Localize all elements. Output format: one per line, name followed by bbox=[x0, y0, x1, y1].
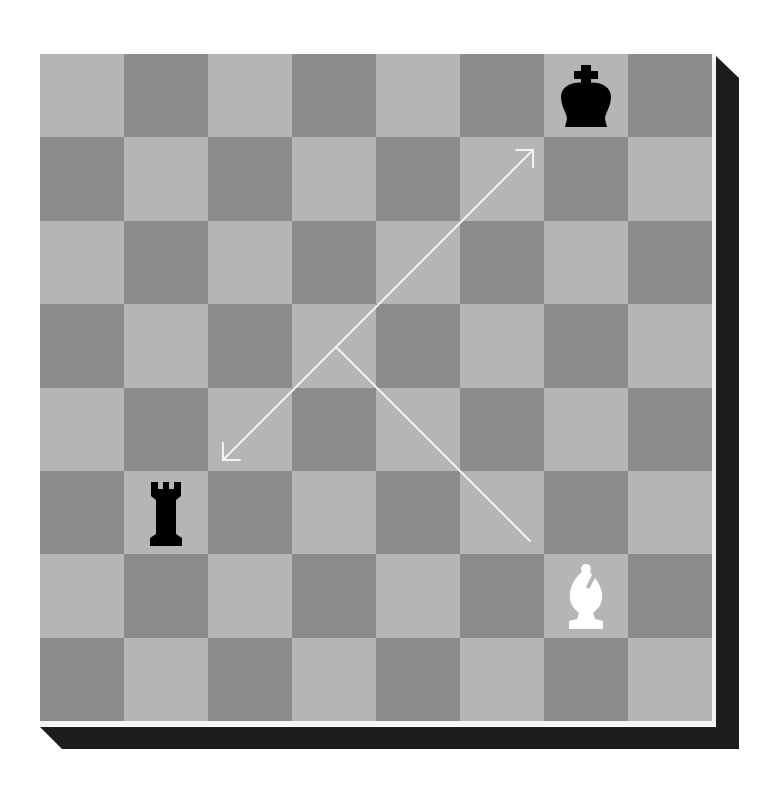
square-c6[interactable] bbox=[208, 221, 292, 304]
square-f6[interactable] bbox=[460, 221, 544, 304]
square-g3[interactable] bbox=[544, 471, 628, 554]
square-e1[interactable] bbox=[376, 638, 460, 721]
square-c7[interactable] bbox=[208, 137, 292, 220]
square-e8[interactable] bbox=[376, 54, 460, 137]
square-e4[interactable] bbox=[376, 388, 460, 471]
square-b1[interactable] bbox=[124, 638, 208, 721]
square-g8[interactable] bbox=[544, 54, 628, 137]
square-a5[interactable] bbox=[40, 304, 124, 387]
square-g1[interactable] bbox=[544, 638, 628, 721]
square-g6[interactable] bbox=[544, 221, 628, 304]
black-rook-icon[interactable] bbox=[131, 478, 201, 548]
square-g5[interactable] bbox=[544, 304, 628, 387]
square-f7[interactable] bbox=[460, 137, 544, 220]
square-b7[interactable] bbox=[124, 137, 208, 220]
square-d1[interactable] bbox=[292, 638, 376, 721]
square-c2[interactable] bbox=[208, 554, 292, 637]
square-e7[interactable] bbox=[376, 137, 460, 220]
square-e6[interactable] bbox=[376, 221, 460, 304]
square-a7[interactable] bbox=[40, 137, 124, 220]
square-c3[interactable] bbox=[208, 471, 292, 554]
square-d6[interactable] bbox=[292, 221, 376, 304]
square-d8[interactable] bbox=[292, 54, 376, 137]
square-g7[interactable] bbox=[544, 137, 628, 220]
square-f5[interactable] bbox=[460, 304, 544, 387]
square-h3[interactable] bbox=[628, 471, 712, 554]
square-a4[interactable] bbox=[40, 388, 124, 471]
square-h1[interactable] bbox=[628, 638, 712, 721]
square-a2[interactable] bbox=[40, 554, 124, 637]
square-f2[interactable] bbox=[460, 554, 544, 637]
square-c1[interactable] bbox=[208, 638, 292, 721]
square-e3[interactable] bbox=[376, 471, 460, 554]
square-a1[interactable] bbox=[40, 638, 124, 721]
square-f8[interactable] bbox=[460, 54, 544, 137]
square-d4[interactable] bbox=[292, 388, 376, 471]
square-b3[interactable] bbox=[124, 471, 208, 554]
square-e2[interactable] bbox=[376, 554, 460, 637]
square-g4[interactable] bbox=[544, 388, 628, 471]
square-f3[interactable] bbox=[460, 471, 544, 554]
square-h6[interactable] bbox=[628, 221, 712, 304]
square-d5[interactable] bbox=[292, 304, 376, 387]
square-f1[interactable] bbox=[460, 638, 544, 721]
square-h5[interactable] bbox=[628, 304, 712, 387]
square-d2[interactable] bbox=[292, 554, 376, 637]
square-f4[interactable] bbox=[460, 388, 544, 471]
square-c8[interactable] bbox=[208, 54, 292, 137]
chess-board bbox=[40, 54, 716, 726]
square-e5[interactable] bbox=[376, 304, 460, 387]
square-d7[interactable] bbox=[292, 137, 376, 220]
square-a8[interactable] bbox=[40, 54, 124, 137]
square-h4[interactable] bbox=[628, 388, 712, 471]
square-a3[interactable] bbox=[40, 471, 124, 554]
square-g2[interactable] bbox=[544, 554, 628, 637]
square-h8[interactable] bbox=[628, 54, 712, 137]
square-c4[interactable] bbox=[208, 388, 292, 471]
square-b2[interactable] bbox=[124, 554, 208, 637]
square-b4[interactable] bbox=[124, 388, 208, 471]
square-b5[interactable] bbox=[124, 304, 208, 387]
white-bishop-icon[interactable] bbox=[551, 561, 621, 631]
chess-diagram bbox=[0, 0, 776, 788]
square-a6[interactable] bbox=[40, 221, 124, 304]
square-b6[interactable] bbox=[124, 221, 208, 304]
square-b8[interactable] bbox=[124, 54, 208, 137]
square-h7[interactable] bbox=[628, 137, 712, 220]
square-h2[interactable] bbox=[628, 554, 712, 637]
square-c5[interactable] bbox=[208, 304, 292, 387]
black-king-icon[interactable] bbox=[551, 61, 621, 131]
square-d3[interactable] bbox=[292, 471, 376, 554]
